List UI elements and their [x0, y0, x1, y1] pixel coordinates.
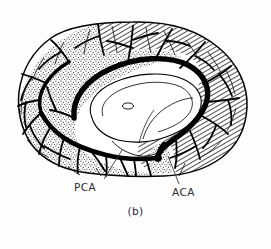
artery-junction-node [155, 155, 162, 162]
figure-caption: (b) [0, 205, 271, 217]
massa-intermedia-oval [122, 103, 133, 109]
label-aca: ACA [172, 186, 195, 198]
label-pca: PCA [74, 181, 96, 193]
figure-container: PCA ACA (b) [0, 0, 271, 249]
